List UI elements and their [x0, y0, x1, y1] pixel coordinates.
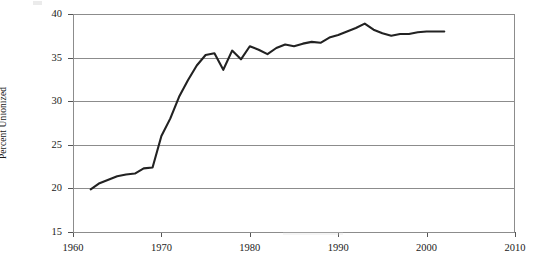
data-series-line — [73, 14, 515, 232]
x-tick-label: 2000 — [407, 243, 447, 254]
plot-area — [73, 14, 515, 232]
scan-artifact — [283, 232, 343, 235]
y-axis-title: Percent Unionized — [0, 0, 18, 274]
x-tick-label: 1960 — [53, 243, 93, 254]
y-tick-label: 25 — [36, 140, 62, 151]
chart-figure: Percent Unionized 152025303540 196019701… — [0, 0, 542, 274]
x-tick-label: 1970 — [141, 243, 181, 254]
y-tick-label: 20 — [36, 183, 62, 194]
y-tick-label: 15 — [36, 227, 62, 238]
scan-artifact — [33, 1, 42, 5]
y-tick-label: 35 — [36, 53, 62, 64]
y-axis-title-text: Percent Unionized — [0, 87, 8, 159]
x-tick-mark — [515, 232, 516, 237]
x-tick-label: 2010 — [495, 243, 535, 254]
x-tick-label: 1980 — [230, 243, 270, 254]
y-tick-label: 40 — [36, 9, 62, 20]
y-tick-label: 30 — [36, 96, 62, 107]
x-tick-label: 1990 — [318, 243, 358, 254]
